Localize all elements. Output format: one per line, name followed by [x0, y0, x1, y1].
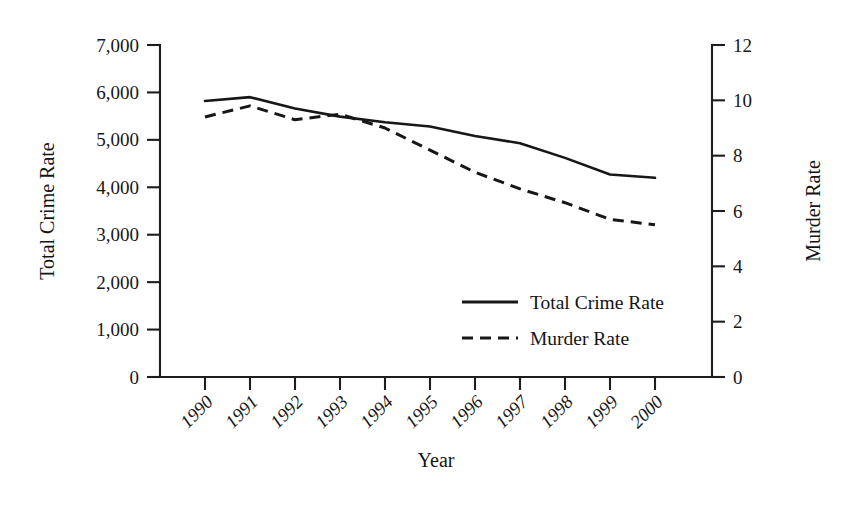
right-tick-label: 10 [733, 90, 752, 111]
x-tick-label: 1990 [177, 391, 218, 432]
x-tick-label: 1993 [312, 392, 352, 432]
left-tick-label: 4,000 [96, 177, 139, 198]
series-total-crime-rate-line [205, 97, 655, 178]
x-axis: 1990199119921993199419951996199719981999… [160, 377, 712, 471]
right-tick-label: 0 [733, 367, 743, 388]
line-chart: 01,0002,0003,0004,0005,0006,0007,000 Tot… [0, 0, 860, 507]
right-tick-label: 2 [733, 311, 743, 332]
legend-item-label: Murder Rate [530, 328, 629, 349]
left-axis: 01,0002,0003,0004,0005,0006,0007,000 Tot… [36, 35, 160, 388]
left-tick-label: 7,000 [96, 35, 139, 56]
x-tick-label: 1997 [492, 391, 533, 432]
x-tick-label: 1999 [582, 392, 622, 432]
right-tick-label: 12 [733, 35, 752, 56]
left-tick-label: 6,000 [96, 82, 139, 103]
x-axis-title: Year [418, 449, 455, 471]
left-axis-title: Total Crime Rate [36, 142, 58, 280]
right-axis-ticks: 024681012 [712, 35, 752, 388]
chart-page: 01,0002,0003,0004,0005,0006,0007,000 Tot… [0, 0, 860, 507]
x-tick-label: 1992 [267, 392, 307, 432]
legend-item-label: Total Crime Rate [530, 292, 664, 313]
x-tick-label: 2000 [627, 391, 668, 432]
right-tick-label: 4 [733, 256, 743, 277]
right-tick-label: 8 [733, 145, 743, 166]
left-axis-ticks: 01,0002,0003,0004,0005,0006,0007,000 [96, 35, 160, 388]
left-tick-label: 0 [130, 367, 140, 388]
left-tick-label: 1,000 [96, 319, 139, 340]
right-tick-label: 6 [733, 201, 743, 222]
x-axis-ticks: 1990199119921993199419951996199719981999… [177, 377, 668, 432]
series-group [205, 97, 655, 225]
x-tick-label: 1996 [447, 391, 488, 432]
chart-legend: Total Crime RateMurder Rate [462, 292, 664, 349]
x-tick-label: 1995 [402, 392, 442, 432]
left-tick-label: 5,000 [96, 129, 139, 150]
right-axis: 024681012 Murder Rate [712, 35, 824, 388]
x-tick-label: 1991 [222, 392, 262, 432]
left-tick-label: 2,000 [96, 272, 139, 293]
x-tick-label: 1994 [357, 392, 397, 432]
right-axis-title: Murder Rate [802, 160, 824, 262]
x-tick-label: 1998 [537, 391, 578, 432]
left-tick-label: 3,000 [96, 224, 139, 245]
